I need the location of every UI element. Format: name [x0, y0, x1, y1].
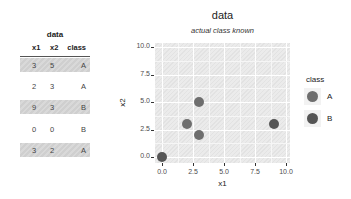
y-tick-label: 10.0	[128, 42, 150, 49]
table-title: data	[20, 30, 90, 39]
plot-panel	[155, 43, 290, 163]
gridline-y-2.5	[155, 130, 290, 131]
x-tick-mark	[255, 163, 256, 166]
y-axis-label: x2	[118, 98, 127, 106]
column-header-class: class	[67, 43, 86, 52]
x-tick-mark	[224, 163, 225, 166]
y-tick-label: 0.0	[128, 152, 150, 159]
legend-dot-icon	[307, 113, 318, 124]
table-row: 0 0 B	[20, 122, 90, 136]
y-tick-mark	[151, 75, 154, 76]
gridline-y-0	[155, 157, 290, 158]
legend-title: class	[306, 75, 324, 84]
table-row: 2 3 A	[20, 79, 90, 93]
legend-key-A	[304, 88, 321, 105]
y-tick-label: 2.5	[128, 125, 150, 132]
cell-x2: 0	[50, 125, 54, 134]
y-tick-label: 7.5	[128, 70, 150, 77]
cell-class: B	[81, 103, 86, 112]
x-tick-label: 2.5	[181, 168, 205, 175]
gridline-y-7.5	[155, 75, 290, 76]
x-axis-label: x1	[155, 179, 290, 188]
cell-x1: 2	[32, 82, 36, 91]
y-tick-mark	[151, 130, 154, 131]
cell-x2: 5	[50, 61, 54, 70]
data-point-A	[182, 119, 192, 129]
x-tick-label: 5.0	[212, 168, 236, 175]
table-header: x1 x2 class	[20, 43, 90, 53]
gridline-y-10	[155, 47, 290, 48]
cell-x1: 9	[32, 103, 36, 112]
cell-class: A	[81, 82, 86, 91]
legend-label-A: A	[327, 92, 332, 101]
x-tick-mark	[193, 163, 194, 166]
cell-class: B	[81, 125, 86, 134]
legend-dot-icon	[307, 91, 318, 102]
x-tick-label: 7.5	[243, 168, 267, 175]
cell-x1: 0	[32, 125, 36, 134]
legend-key-B	[304, 110, 321, 127]
x-tick-mark	[162, 163, 163, 166]
cell-x2: 3	[50, 82, 54, 91]
x-tick-label: 10.0	[274, 168, 298, 175]
plot-subtitle: actual class known	[155, 26, 290, 35]
x-tick-label: 0.0	[150, 168, 174, 175]
y-tick-mark	[151, 157, 154, 158]
column-header-x2: x2	[50, 43, 58, 52]
cell-x1: 3	[32, 61, 36, 70]
cell-class: A	[81, 146, 86, 155]
legend-label-B: B	[327, 114, 332, 123]
y-tick-label: 5.0	[128, 97, 150, 104]
cell-class: A	[81, 61, 86, 70]
header-divider	[20, 56, 90, 57]
table-row: 3 2 A	[20, 143, 90, 157]
table-row: 9 3 B	[20, 100, 90, 114]
table-row: 3 5 A	[20, 58, 90, 72]
cell-x2: 3	[50, 103, 54, 112]
gridline-y-5	[155, 102, 290, 103]
plot-title: data	[155, 9, 290, 21]
cell-x2: 2	[50, 146, 54, 155]
cell-x1: 3	[32, 146, 36, 155]
data-point-B	[157, 152, 167, 162]
y-tick-mark	[151, 47, 154, 48]
y-tick-mark	[151, 102, 154, 103]
x-tick-mark	[286, 163, 287, 166]
column-header-x1: x1	[32, 43, 40, 52]
data-point-B	[269, 119, 279, 129]
